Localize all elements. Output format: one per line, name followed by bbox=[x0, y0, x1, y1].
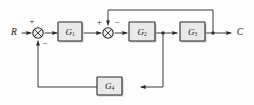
sum2-minus-sign: − bbox=[115, 17, 120, 27]
sum1-minus-sign: − bbox=[43, 38, 48, 48]
sum1-plus-sign: + bbox=[30, 16, 35, 26]
output-label-c: C bbox=[237, 27, 244, 37]
wire-g3-to-output bbox=[206, 31, 231, 34]
block-g3[interactable]: G3 bbox=[180, 22, 207, 43]
block-g2[interactable]: G2 bbox=[129, 22, 157, 43]
block-diagram-figure: G1 G2 G3 G4 bbox=[0, 0, 254, 105]
block-g1[interactable]: G1 bbox=[58, 22, 84, 43]
sum2-plus-sign: + bbox=[97, 17, 102, 27]
summing-junction-2[interactable] bbox=[103, 28, 113, 38]
block-g4[interactable]: G4 bbox=[97, 77, 124, 97]
wire-g2-to-g3 bbox=[156, 31, 177, 34]
block-diagram-canvas: G1 G2 G3 G4 bbox=[0, 0, 254, 105]
summing-junction-1[interactable] bbox=[33, 28, 43, 38]
input-label-r: R bbox=[10, 27, 17, 37]
